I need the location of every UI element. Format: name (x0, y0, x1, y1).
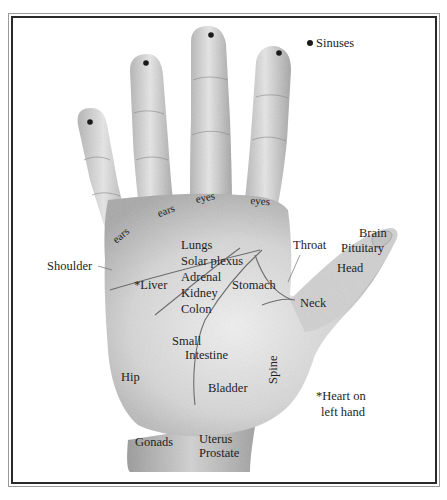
label-shoulder: Shoulder (47, 259, 92, 273)
label-stomach: Stomach (232, 278, 276, 292)
label-liver: *Liver (134, 278, 167, 292)
label-pituitary: Pituitary (341, 241, 384, 255)
label-solar-plexus: Solar plexus (181, 254, 243, 268)
label-bladder: Bladder (208, 381, 248, 395)
middle-finger (190, 26, 232, 212)
label-lungs: Lungs (181, 238, 212, 252)
sinus-dot-middle (208, 32, 214, 38)
label-intestine: Intestine (185, 348, 228, 362)
label-gonads: Gonads (135, 435, 173, 449)
sinus-dot-ring (143, 60, 149, 66)
label-adrenal: Adrenal (181, 270, 221, 284)
label-uterus: Uterus (199, 432, 232, 446)
sinus-legend-dot (307, 40, 313, 46)
legend-sinuses: Sinuses (316, 36, 354, 50)
sinus-dot-pinky (87, 119, 93, 125)
index-finger (244, 46, 291, 215)
sinus-dot-index (276, 50, 282, 56)
label-small: Small (172, 334, 201, 348)
note-heart-line1: *Heart on (316, 389, 366, 403)
label-neck: Neck (300, 296, 326, 310)
label-spine: Spine (266, 356, 280, 384)
label-brain: Brain (359, 226, 387, 240)
label-prostate: Prostate (199, 446, 239, 460)
label-head: Head (337, 261, 363, 275)
label-colon: Colon (181, 302, 212, 316)
label-throat: Throat (293, 238, 326, 252)
note-heart-line2: left hand (321, 405, 365, 419)
label-kidney: Kidney (181, 286, 218, 300)
label-eyes-2: eyes (250, 193, 270, 208)
label-hip: Hip (121, 370, 140, 384)
